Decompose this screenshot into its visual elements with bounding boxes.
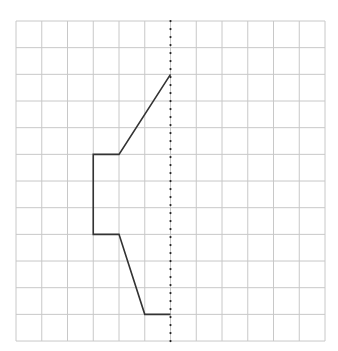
half-shape-outline [93, 74, 170, 314]
symmetry-grid-diagram [0, 0, 338, 351]
